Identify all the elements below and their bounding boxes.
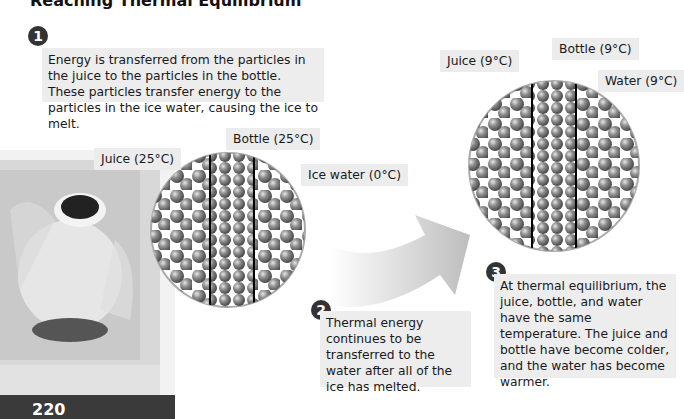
label-water-final: Water (9°C) — [598, 70, 684, 92]
label-bottle-initial: Bottle (25°C) — [226, 128, 320, 150]
label-bottle-final: Bottle (9°C) — [552, 38, 639, 60]
step-3-text: At thermal equilibrium, the juice, bottl… — [494, 274, 676, 378]
page-title: Reaching Thermal Equilibrium — [30, 0, 301, 10]
step-1-badge: 1 — [28, 26, 48, 46]
label-juice-initial: Juice (25°C) — [94, 148, 181, 170]
step-2-text: Thermal energy continues to be transferr… — [320, 311, 471, 387]
step-1-text: Energy is transferred from the particles… — [42, 48, 324, 102]
page-number: 220 — [32, 400, 65, 419]
label-juice-final: Juice (9°C) — [440, 50, 519, 72]
initial-particle-diagram — [148, 150, 308, 310]
final-particle-diagram — [466, 78, 642, 254]
transition-arrow-icon — [330, 205, 480, 325]
label-ice-water-initial: Ice water (0°C) — [301, 164, 408, 186]
